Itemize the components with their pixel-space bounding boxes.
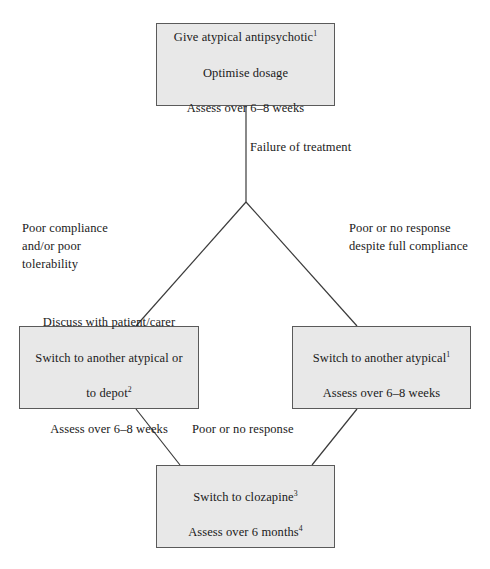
node-right-text: Switch to another atypical1 Assess over …	[307, 332, 456, 403]
edge-label-poor-or-no-response: Poor or no response	[192, 421, 294, 439]
node-left-line-4: Assess over 6–8 weeks	[50, 422, 168, 436]
node-right-line-1: Switch to another atypical	[313, 351, 446, 365]
node-switch-to-another-atypical: Switch to another atypical1 Assess over …	[292, 326, 471, 409]
edge-branch-to-right	[246, 202, 357, 326]
edge-label-poor-or-no-response-despite-full-compliance: Poor or no response despite full complia…	[349, 220, 468, 256]
node-right-line-1-superscript: 1	[446, 350, 450, 359]
node-switch-to-clozapine: Switch to clozapine3 Assess over 6 month…	[156, 465, 335, 548]
node-left-line-3-superscript: 2	[128, 385, 132, 394]
node-start-line-1-superscript: 1	[313, 29, 317, 38]
node-clozapine-text: Switch to clozapine3 Assess over 6 month…	[182, 471, 309, 542]
edge-label-failure-of-treatment: Failure of treatment	[250, 139, 351, 157]
node-start-line-3: Assess over 6–8 weeks	[187, 101, 305, 115]
edge-right-to-clozapine	[312, 409, 357, 465]
node-clozapine-line-2-superscript: 4	[299, 524, 303, 533]
node-start-text: Give atypical antipsychotic1 Optimise do…	[168, 11, 323, 118]
node-left-line-1: Discuss with patient/carer	[43, 315, 175, 329]
node-left-text: Discuss with patient/carer Switch to ano…	[29, 297, 188, 439]
node-right-line-2: Assess over 6–8 weeks	[323, 386, 441, 400]
node-clozapine-line-1: Switch to clozapine	[193, 490, 293, 504]
node-clozapine-line-1-superscript: 3	[294, 489, 298, 498]
node-give-atypical-antipsychotic: Give atypical antipsychotic1 Optimise do…	[156, 23, 335, 106]
edge-label-poor-compliance: Poor compliance and/or poor tolerability	[22, 220, 108, 273]
node-start-line-2: Optimise dosage	[203, 66, 288, 80]
node-left-line-2: Switch to another atypical or	[35, 351, 182, 365]
node-discuss-with-patient-carer: Discuss with patient/carer Switch to ano…	[19, 326, 199, 409]
flowchart-diagram: Give atypical antipsychotic1 Optimise do…	[0, 0, 490, 569]
node-start-line-1: Give atypical antipsychotic	[174, 30, 313, 44]
node-clozapine-line-2: Assess over 6 months	[188, 525, 299, 539]
node-left-line-3: to depot	[86, 386, 127, 400]
